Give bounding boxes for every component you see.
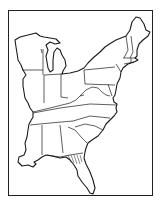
eastern-us-map: [0, 0, 162, 203]
green-bay-mark: [41, 49, 42, 53]
outline-path: [15, 17, 150, 194]
hatched-region: [68, 155, 82, 164]
state-borders: [22, 36, 135, 157]
